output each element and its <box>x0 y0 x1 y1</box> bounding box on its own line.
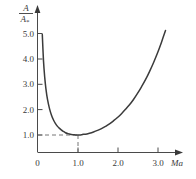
y-axis-ticks: 5.0 4.0 3.0 2.0 1.0 <box>23 29 43 141</box>
x-tick-label-2: 2.0 <box>112 158 124 168</box>
y-tick-label-4: 4.0 <box>23 54 35 64</box>
x-axis-arrow-icon <box>175 150 183 156</box>
x-tick-label-1: 1.0 <box>72 158 84 168</box>
chart-canvas: A A* 5.0 4.0 3.0 2.0 1.0 <box>0 0 196 179</box>
area-ratio-curve <box>42 30 165 135</box>
x-axis-ticks: 0 1.0 2.0 3.0 <box>35 148 164 169</box>
y-axis-arrow-icon <box>35 5 41 13</box>
y-tick-label-1: 1.0 <box>23 130 35 140</box>
x-tick-label-0: 0 <box>35 158 40 168</box>
y-axis-label-denominator: A* <box>20 14 31 26</box>
y-axis-label: A A* <box>19 3 33 26</box>
minimum-guide-lines <box>38 135 78 152</box>
area-ratio-mach-chart: A A* 5.0 4.0 3.0 2.0 1.0 <box>0 0 196 179</box>
y-tick-label-2: 2.0 <box>23 105 35 115</box>
axes-group <box>35 5 183 155</box>
x-tick-label-3: 3.0 <box>152 158 164 168</box>
y-tick-label-5: 5.0 <box>23 29 35 39</box>
y-axis-label-numerator: A <box>22 3 29 13</box>
x-axis-title: Ma <box>170 158 183 168</box>
y-tick-label-3: 3.0 <box>23 79 35 89</box>
